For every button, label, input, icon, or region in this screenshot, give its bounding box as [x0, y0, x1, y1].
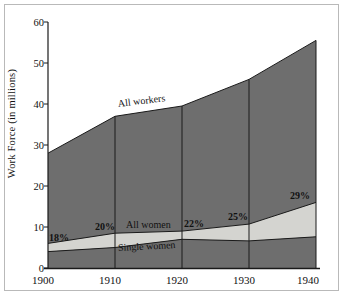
annotation-20-percent: 20%: [95, 222, 115, 232]
chart-figure: Work Force (in millions) 60 50 40 30 20 …: [0, 0, 345, 297]
annotation-18-percent: 18%: [49, 233, 69, 243]
annotation-22-percent: 22%: [184, 219, 204, 229]
annotation-29-percent: 29%: [290, 191, 310, 201]
series-label-all-women: All women: [126, 220, 171, 230]
chart-plot-area: [0, 0, 345, 297]
annotation-25-percent: 25%: [228, 212, 248, 222]
